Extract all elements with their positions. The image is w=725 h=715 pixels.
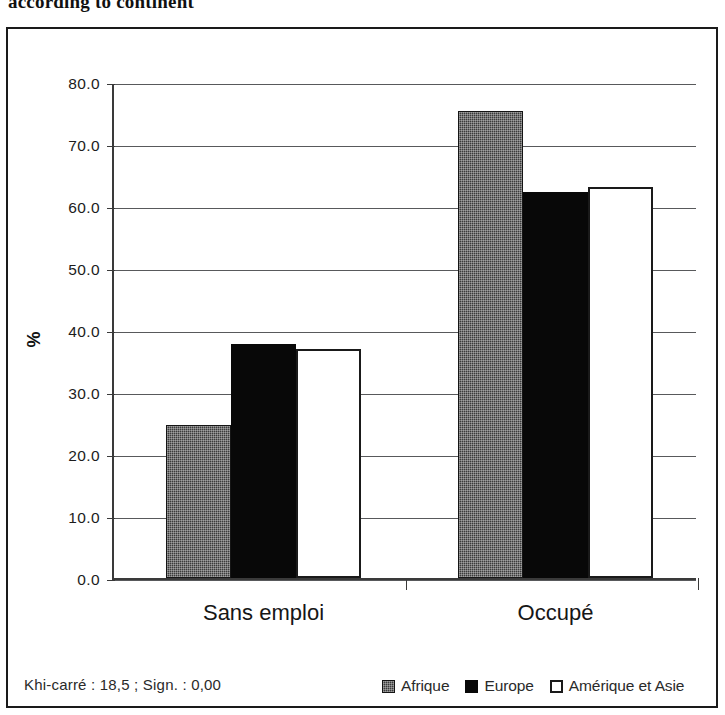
bar[interactable] <box>588 187 653 578</box>
dark-gray-dither-swatch <box>382 680 395 693</box>
bar-group <box>458 84 653 578</box>
y-axis-tick <box>107 146 115 147</box>
x-axis-tick <box>698 578 699 590</box>
y-axis-tick <box>107 208 115 209</box>
y-axis-tick <box>107 270 115 271</box>
y-axis-tick <box>107 394 115 395</box>
x-axis-category-label: Occupé <box>518 600 594 626</box>
y-axis-tick <box>107 456 115 457</box>
y-axis-tick-label: 40.0 <box>68 323 100 341</box>
bar-group <box>166 84 361 578</box>
legend-item-label: Amérique et Asie <box>569 677 685 695</box>
bar[interactable] <box>458 111 523 578</box>
y-axis-tick-label: 20.0 <box>68 447 100 465</box>
x-axis-category-label: Sans emploi <box>203 600 324 626</box>
y-axis-tick-label: 70.0 <box>68 137 100 155</box>
legend-item-label: Europe <box>484 677 533 695</box>
bar[interactable] <box>166 425 231 578</box>
y-axis-tick <box>107 580 115 581</box>
bar[interactable] <box>296 349 361 578</box>
y-axis-tick <box>107 332 115 333</box>
y-axis-tick-label: 50.0 <box>68 261 100 279</box>
legend-item[interactable]: Europe <box>465 677 533 695</box>
bar[interactable] <box>231 344 296 578</box>
plot-area: 0.010.020.030.040.050.060.070.080.0 Sans… <box>112 84 696 580</box>
white-outlined-swatch <box>550 680 563 693</box>
bar[interactable] <box>523 192 588 578</box>
gridline <box>114 580 696 581</box>
y-axis-tick-label: 10.0 <box>68 509 100 527</box>
legend-item[interactable]: Afrique <box>382 677 449 695</box>
y-axis-tick <box>107 518 115 519</box>
chart-legend: AfriqueEuropeAmérique et Asie <box>382 677 684 695</box>
black-swatch <box>465 680 478 693</box>
legend-item[interactable]: Amérique et Asie <box>550 677 685 695</box>
y-axis-tick-label: 80.0 <box>68 75 100 93</box>
y-axis-tick <box>107 84 115 85</box>
legend-item-label: Afrique <box>401 677 449 695</box>
x-axis-tick <box>406 578 407 590</box>
y-axis-tick-label: 0.0 <box>77 571 100 589</box>
y-axis-title: % <box>24 331 45 347</box>
statistics-note: Khi-carré : 18,5 ; Sign. : 0,00 <box>24 676 221 693</box>
page-title: according to continent <box>8 0 608 13</box>
chart-frame: % 0.010.020.030.040.050.060.070.080.0 Sa… <box>6 27 718 708</box>
y-axis-tick-label: 30.0 <box>68 385 100 403</box>
y-axis-tick-label: 60.0 <box>68 199 100 217</box>
